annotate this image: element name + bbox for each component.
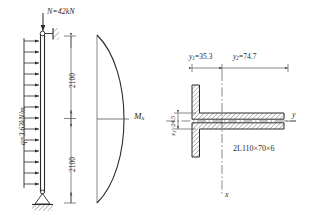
dim-x1-subscript: 1 — [172, 131, 177, 133]
dimension-line-vertical — [64, 36, 76, 203]
dim-y1-value: =35.3 — [195, 52, 212, 61]
dimension-upper-text: 2100 — [68, 73, 77, 88]
axial-load-label: N=42kN — [47, 8, 75, 16]
distributed-load-label: q=3.63kN/m — [19, 107, 27, 145]
dim-y2-label: y2=74.7 — [233, 53, 256, 62]
dimension-lower-label: 2100 — [69, 157, 77, 172]
dimension-upper-label: 2100 — [69, 73, 77, 88]
dim-x1-symbol: x — [169, 133, 176, 136]
axial-load-text: N=42kN — [47, 7, 75, 16]
dim-x1-value: =24.5 — [169, 116, 176, 131]
section-dimension-lines — [192, 64, 288, 72]
figure-canvas: N=42kN q=3.63kN/m 2100 2100 Mx y1=35.3 y… — [0, 0, 309, 223]
moment-label: Mx — [134, 112, 144, 122]
bottom-support — [32, 190, 53, 211]
moment-subscript: x — [142, 114, 145, 121]
distributed-load-text: q=3.63kN/m — [18, 107, 27, 145]
beam-column-load-diagram — [24, 13, 76, 211]
dim-x1-label: x1=24.5 — [170, 116, 178, 136]
dim-y2-value: =74.7 — [239, 52, 256, 61]
dim-y1-label: y1=35.3 — [189, 53, 212, 62]
column-member — [41, 33, 45, 192]
cross-section-diagram — [166, 64, 296, 196]
section-designation-label: 2L110×70×6 — [233, 145, 275, 153]
moment-symbol: M — [134, 111, 142, 121]
dimension-lower-text: 2100 — [68, 157, 77, 172]
bending-moment-diagram — [97, 35, 129, 203]
axis-x-label: x — [225, 191, 229, 199]
diagram-svg — [0, 0, 309, 223]
axis-y-label: y — [292, 111, 296, 119]
centroidal-axes — [166, 72, 296, 196]
